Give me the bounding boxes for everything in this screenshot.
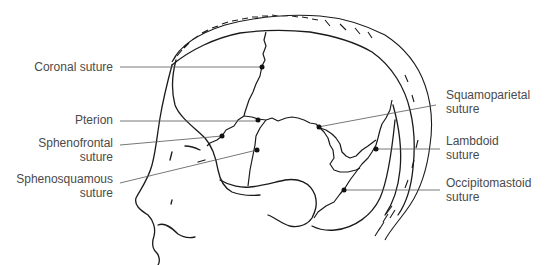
coronal-suture-line — [244, 32, 266, 116]
label-occipitomastoid-suture: Occipitomastoid suture — [446, 176, 531, 204]
pterion-junction-line — [244, 116, 360, 172]
label-sphenosquamous-suture: Sphenosquamous suture — [16, 172, 113, 200]
squamoparietal-point — [317, 125, 322, 130]
pterion-point — [256, 118, 261, 123]
label-sphenosquamous-line-2: suture — [16, 186, 113, 200]
label-pterion: Pterion — [75, 113, 113, 127]
lambdoid-point — [374, 147, 379, 152]
label-pterion-line-1: Pterion — [75, 113, 113, 127]
occipitomastoid-point — [342, 188, 347, 193]
label-squamoparietal-suture: Squamoparietal suture — [446, 88, 530, 116]
sphenofrontal-point — [220, 134, 225, 139]
skull-suture-diagram: Coronal suture Pterion Sphenofrontal sut… — [0, 0, 555, 265]
label-coronal-line-1: Coronal suture — [34, 60, 113, 74]
hair-outline — [172, 15, 432, 240]
label-sphenosquamous-line-1: Sphenosquamous — [16, 172, 113, 186]
chin-line — [158, 224, 195, 237]
sphenofrontal-suture-line — [207, 116, 244, 146]
label-occipitomastoid-line-2: suture — [446, 190, 531, 204]
sphenosquamous-suture-line — [248, 120, 266, 186]
label-sphenofrontal-line-1: Sphenofrontal — [38, 136, 113, 150]
leader-squamoparietal — [318, 105, 436, 127]
label-squamoparietal-line-2: suture — [446, 102, 530, 116]
label-squamoparietal-line-1: Squamoparietal — [446, 88, 530, 102]
label-lambdoid-line-2: suture — [446, 148, 499, 162]
skull-vault-outline — [172, 31, 414, 215]
leader-sphenosquamous — [120, 150, 257, 183]
sphenosquamous-point — [255, 148, 260, 153]
label-lambdoid-suture: Lambdoid suture — [446, 134, 499, 162]
coronal-point — [260, 65, 265, 70]
label-occipitomastoid-line-1: Occipitomastoid — [446, 176, 531, 190]
label-sphenofrontal-line-2: suture — [38, 150, 113, 164]
label-sphenofrontal-suture: Sphenofrontal suture — [38, 136, 113, 164]
face-profile-outline — [136, 65, 172, 265]
lambdoid-suture-line — [314, 100, 392, 218]
temporal-lower-border — [220, 180, 316, 227]
skull-illustration — [0, 0, 555, 265]
orbit-marks — [170, 146, 205, 204]
squamoparietal-suture-line — [320, 128, 376, 158]
skull-inner-contour — [385, 105, 401, 215]
label-coronal-suture: Coronal suture — [34, 60, 113, 74]
orbit-curve — [172, 60, 260, 195]
label-lambdoid-line-1: Lambdoid — [446, 134, 499, 148]
